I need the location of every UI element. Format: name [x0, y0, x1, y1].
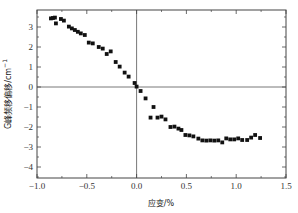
data-point	[105, 52, 109, 56]
axis-ticks: −1.0−0.50.00.51.01.5−4−3−2−10123	[23, 10, 292, 191]
x-axis-label: 应变/%	[148, 198, 175, 208]
data-point	[83, 33, 87, 37]
data-point	[169, 125, 173, 129]
data-point	[133, 81, 137, 85]
y-axis-label: G峰频移偏移/cm−1	[1, 59, 13, 129]
y-tick-label: 0	[29, 82, 34, 92]
data-point	[228, 138, 232, 142]
data-point	[196, 137, 200, 141]
y-tick-label: 1	[29, 62, 34, 72]
x-tick-label: −0.5	[79, 181, 96, 191]
data-point	[173, 125, 177, 129]
data-point	[216, 139, 220, 143]
data-point	[149, 116, 153, 120]
data-point	[200, 139, 204, 143]
data-point	[53, 16, 57, 20]
data-point	[114, 60, 118, 64]
data-point	[208, 139, 212, 143]
data-point	[97, 45, 101, 49]
data-point	[79, 32, 83, 36]
data-point	[204, 139, 208, 143]
data-point	[253, 133, 257, 137]
data-point	[118, 65, 122, 69]
data-point	[62, 19, 66, 23]
scatter-chart: −1.0−0.50.00.51.01.5−4−3−2−10123 应变/% G峰…	[0, 0, 298, 213]
data-point	[187, 134, 191, 138]
data-point	[152, 105, 156, 109]
data-point	[180, 128, 184, 132]
data-point	[212, 139, 216, 143]
data-point	[135, 85, 139, 89]
x-tick-label: −1.0	[29, 181, 46, 191]
data-point	[139, 89, 143, 93]
data-point	[236, 137, 240, 141]
data-point	[160, 115, 164, 119]
data-point	[101, 47, 105, 51]
plot-frame	[37, 10, 286, 178]
data-point	[240, 138, 244, 142]
y-tick-label: −2	[23, 122, 33, 132]
data-point	[164, 118, 168, 122]
y-tick-label: 3	[29, 22, 34, 32]
x-tick-label: 1.0	[231, 181, 243, 191]
x-tick-label: 0.0	[131, 181, 143, 191]
data-point	[156, 116, 160, 120]
data-point	[258, 136, 262, 140]
data-point	[224, 137, 228, 141]
data-point	[245, 138, 249, 142]
data-point	[249, 136, 253, 140]
data-point	[184, 133, 188, 137]
y-tick-label: −3	[23, 142, 33, 152]
x-tick-label: 1.5	[280, 181, 292, 191]
data-point	[127, 75, 131, 79]
data-points	[49, 16, 262, 145]
y-tick-label: −1	[23, 102, 33, 112]
data-point	[191, 135, 195, 139]
data-point	[123, 71, 127, 75]
data-point	[91, 42, 95, 46]
data-point	[220, 141, 224, 145]
data-point	[54, 22, 58, 26]
zero-reference-lines	[37, 10, 286, 178]
data-point	[87, 41, 91, 45]
y-tick-label: 2	[29, 42, 34, 52]
data-point	[109, 50, 113, 54]
data-point	[144, 97, 148, 101]
y-tick-label: −4	[23, 162, 33, 172]
data-point	[232, 138, 236, 142]
x-tick-label: 0.5	[181, 181, 193, 191]
